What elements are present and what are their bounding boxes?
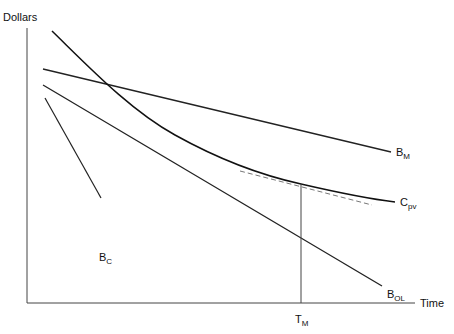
label-cpv: Cpv: [400, 196, 416, 211]
label-tm: TM: [295, 313, 308, 328]
line-bc: [45, 98, 101, 198]
tangent-line: [240, 171, 372, 205]
line-bm: [43, 69, 391, 152]
curve-cpv: [52, 31, 395, 202]
label-bc: BC: [99, 251, 112, 266]
label-bm: BM: [396, 146, 410, 161]
diagram-canvas: [0, 0, 454, 334]
label-bol: BOL: [387, 288, 405, 303]
y-axis-label: Dollars: [3, 11, 37, 23]
x-axis-label: Time: [420, 297, 444, 309]
